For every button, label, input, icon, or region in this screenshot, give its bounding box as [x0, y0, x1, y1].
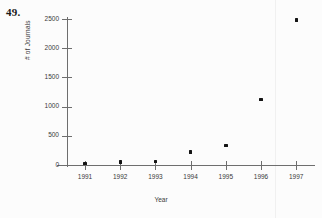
x-axis-tick [261, 161, 262, 170]
y-axis-title: # of Journals [24, 20, 31, 60]
x-axis-title: Year [0, 196, 322, 203]
x-axis-tick [296, 161, 297, 170]
data-point [224, 144, 227, 147]
x-axis-tick [226, 161, 227, 170]
data-point [83, 162, 86, 165]
y-axis-tick [62, 136, 72, 137]
data-point [189, 150, 192, 153]
y-axis-tick [62, 165, 72, 166]
y-axis-tick-label: 500 [29, 132, 59, 139]
data-point [295, 18, 298, 21]
x-axis-tick-label: 1995 [206, 174, 246, 181]
y-axis-tick [62, 48, 72, 49]
x-axis-tick-label: 1994 [171, 174, 211, 181]
y-axis-tick-label: 1000 [29, 103, 59, 110]
problem-number: 49. [6, 6, 20, 18]
x-axis-tick-label: 1993 [135, 174, 175, 181]
x-axis-line [57, 165, 315, 166]
x-axis-tick-label: 1991 [65, 174, 105, 181]
y-axis-tick-label: 2000 [29, 45, 59, 52]
x-axis-tick [191, 161, 192, 170]
y-axis-tick-label: 2500 [29, 16, 59, 23]
data-point [154, 160, 157, 163]
scatter-plot-figure: 49. 05001000150020002500 199119921993199… [0, 0, 322, 218]
x-axis-tick-label: 1996 [241, 174, 281, 181]
scan-artifact-line [275, 0, 276, 218]
y-axis-tick [62, 77, 72, 78]
x-axis-tick-label: 1992 [100, 174, 140, 181]
x-axis-tick-label: 1997 [276, 174, 316, 181]
y-axis-line [67, 17, 68, 167]
data-point [119, 160, 122, 163]
y-axis-tick [62, 107, 72, 108]
y-axis-tick-label: 0 [29, 162, 59, 169]
data-point [259, 98, 262, 101]
y-axis-tick-label: 1500 [29, 74, 59, 81]
y-axis-tick [62, 19, 72, 20]
